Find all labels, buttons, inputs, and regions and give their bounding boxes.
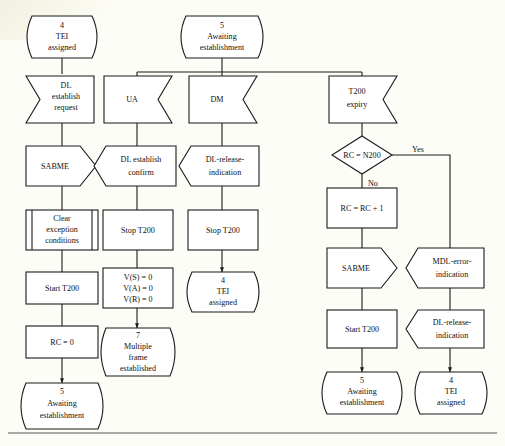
node-label: Stop T200 — [121, 226, 155, 235]
node-label: Start T200 — [45, 284, 79, 293]
node-label: Clear — [53, 214, 71, 223]
node-label: 5 — [360, 376, 364, 385]
node-label: DM — [210, 95, 223, 104]
node-state-awaiting-establishment-bottom-left[interactable]: 5 Awaiting establishment — [21, 383, 103, 429]
node-task-stop-t200-2[interactable]: Stop T200 — [188, 210, 258, 250]
node-label: 4 — [449, 376, 453, 385]
node-label: TEI — [56, 32, 69, 41]
node-signal-dl-release-indication-2[interactable]: DL-release- indication — [406, 310, 484, 348]
node-input-dl-establish-request[interactable]: DL establish request — [26, 76, 94, 123]
branch-label-no: No — [368, 179, 378, 188]
node-input-dm[interactable]: DM — [189, 76, 257, 123]
node-label: TEI — [445, 387, 458, 396]
node-label: SABME — [342, 264, 370, 273]
node-label: RC = N200 — [343, 151, 380, 160]
node-label: 5 — [60, 387, 64, 396]
node-label: UA — [126, 95, 138, 104]
node-task-rc-increment[interactable]: RC = RC + 1 — [327, 188, 397, 228]
node-label: MDL-error- — [433, 257, 472, 266]
node-label: establishment — [340, 398, 385, 407]
node-label: 4 — [221, 276, 225, 285]
node-signal-dl-release-indication-1[interactable]: DL-release- indication — [179, 146, 259, 186]
node-label: V(R) = 0 — [123, 295, 152, 304]
node-decision-rc-equals-n200[interactable]: RC = N200 — [332, 136, 392, 174]
node-label: Awaiting — [347, 387, 376, 396]
node-label: 7 — [136, 331, 140, 340]
node-label: SABME — [41, 162, 69, 171]
node-label: T200 — [348, 87, 365, 96]
node-label: indication — [436, 270, 468, 279]
node-label: indication — [436, 331, 468, 340]
node-label: DL-release- — [206, 155, 245, 164]
node-label: RC = RC + 1 — [341, 204, 384, 213]
node-label: assigned — [48, 43, 76, 52]
node-label: establish — [52, 92, 80, 101]
diagram-canvas: 4 TEI assigned 5 Awaiting establishment … — [0, 0, 505, 446]
node-label: established — [120, 364, 156, 373]
node-output-sabme-2[interactable]: SABME — [327, 248, 397, 288]
node-state-tei-assigned-top[interactable]: 4 TEI assigned — [27, 16, 97, 58]
node-label: Multiple — [124, 342, 152, 351]
node-state-tei-assigned-bottom[interactable]: 4 TEI assigned — [415, 372, 487, 414]
node-label: V(A) = 0 — [123, 284, 153, 293]
node-task-rc-zero[interactable]: RC = 0 — [26, 326, 98, 358]
node-label: 4 — [60, 21, 64, 30]
node-label: expiry — [347, 100, 369, 109]
node-label: exception — [46, 225, 77, 234]
node-signal-dl-establish-confirm[interactable]: DL establish confirm — [94, 146, 176, 186]
node-task-stop-t200-1[interactable]: Stop T200 — [103, 210, 173, 250]
node-input-t200-expiry[interactable]: T200 expiry — [329, 76, 397, 123]
node-state-tei-assigned-mid[interactable]: 4 TEI assigned — [187, 272, 259, 312]
node-output-sabme-1[interactable]: SABME — [26, 146, 96, 186]
node-state-multiple-frame-established[interactable]: 7 Multiple frame established — [101, 328, 175, 376]
node-label: request — [54, 103, 78, 112]
node-label: Awaiting — [207, 32, 236, 41]
node-label: V(S) = 0 — [124, 273, 152, 282]
node-label: indication — [209, 168, 241, 177]
node-label: TEI — [217, 287, 230, 296]
node-label: Stop T200 — [206, 226, 240, 235]
node-label: DL — [61, 81, 72, 90]
node-label: conditions — [45, 236, 79, 245]
node-state-awaiting-establishment-top[interactable]: 5 Awaiting establishment — [181, 16, 263, 58]
node-label: Start T200 — [345, 325, 379, 334]
node-label: Awaiting — [47, 399, 76, 408]
node-label: establishment — [200, 43, 245, 52]
node-task-reset-state-variables[interactable]: V(S) = 0 V(A) = 0 V(R) = 0 — [103, 268, 173, 308]
node-label: assigned — [209, 298, 237, 307]
node-label: DL-release- — [433, 318, 472, 327]
node-state-awaiting-establishment-bottom-right[interactable]: 5 Awaiting establishment — [322, 372, 402, 414]
node-procedure-clear-exception-conditions[interactable]: Clear exception conditions — [26, 210, 98, 250]
node-label: establishment — [40, 411, 85, 420]
node-input-ua[interactable]: UA — [104, 76, 172, 123]
node-label: 5 — [220, 21, 224, 30]
node-label: RC = 0 — [50, 338, 73, 347]
sdl-flowchart: 4 TEI assigned 5 Awaiting establishment … — [0, 0, 505, 446]
node-label: confirm — [128, 168, 154, 177]
node-label: DL establish — [121, 155, 162, 164]
node-label: frame — [129, 353, 148, 362]
node-label: assigned — [437, 398, 465, 407]
branch-label-yes: Yes — [412, 145, 424, 154]
node-task-start-t200-2[interactable]: Start T200 — [327, 310, 397, 348]
node-signal-mdl-error-indication[interactable]: MDL-error- indication — [406, 248, 484, 288]
node-task-start-t200-1[interactable]: Start T200 — [26, 272, 98, 304]
